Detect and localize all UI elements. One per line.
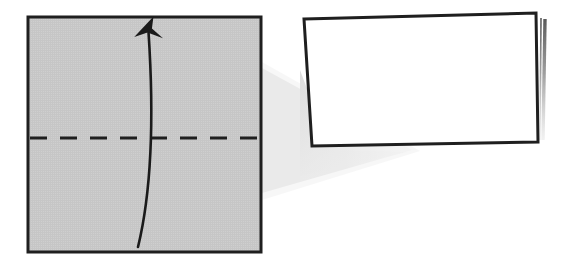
unfolded-sheet-group[interactable] bbox=[28, 17, 261, 252]
folded-sheet[interactable] bbox=[304, 13, 538, 146]
diagram-canvas bbox=[0, 0, 562, 269]
origami-diagram: Fold the square sheet in half along the … bbox=[0, 0, 562, 269]
back-layer-edge-inner bbox=[540, 18, 541, 140]
back-layer-edge bbox=[543, 19, 545, 140]
folded-sheet-group[interactable] bbox=[304, 13, 545, 146]
